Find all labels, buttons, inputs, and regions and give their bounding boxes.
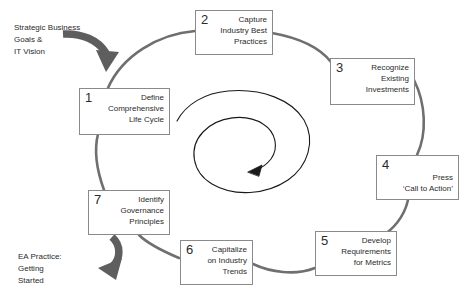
node-box-6[interactable]: 6 Capitalize on Industry Trends xyxy=(180,240,253,285)
output-label-line-3: Started xyxy=(18,275,62,287)
node-1-line-1: Define xyxy=(84,92,164,103)
ring-arc-6-to-7 xyxy=(139,235,179,258)
node-3-line-2: Existing xyxy=(335,73,409,84)
node-1-number: 1 xyxy=(85,91,92,104)
node-3-line-1: Recognize xyxy=(335,62,409,73)
node-1-line-3: Life Cycle xyxy=(84,114,164,125)
node-1-line-2: Comprehensive xyxy=(84,103,164,114)
ring-arc-2-to-3 xyxy=(272,33,331,62)
diagram-canvas: Strategic Business Goals & IT Vision EA … xyxy=(0,0,467,304)
node-box-2[interactable]: 2 Capture Industry Best Practices xyxy=(195,10,273,55)
input-label: Strategic Business Goals & IT Vision xyxy=(14,22,80,58)
node-box-7[interactable]: 7 Identify Governance Principles xyxy=(88,190,170,235)
node-box-4[interactable]: 4 Press ‘Call to Action’ xyxy=(376,155,459,200)
node-box-1[interactable]: 1 Define Comprehensive Life Cycle xyxy=(79,88,170,135)
node-5-number: 5 xyxy=(321,234,328,247)
node-3-text: Recognize Existing Investments xyxy=(335,62,409,95)
node-4-text: Press ‘Call to Action’ xyxy=(381,159,453,194)
node-2-text: Capture Industry Best Practices xyxy=(200,14,267,47)
node-7-line-1: Identify xyxy=(93,194,164,205)
node-7-line-2: Governance xyxy=(93,205,164,216)
node-6-line-3: Trends xyxy=(185,266,247,277)
node-5-line-2: Requirements xyxy=(320,246,391,257)
node-4-number: 4 xyxy=(382,158,389,171)
node-5-line-3: for Metrics xyxy=(320,257,391,268)
node-7-line-3: Principles xyxy=(93,216,164,227)
input-arrow-head xyxy=(96,50,119,72)
ring-arc-1-to-2 xyxy=(108,31,195,88)
node-3-number: 3 xyxy=(336,61,343,74)
node-2-number: 2 xyxy=(201,13,208,26)
output-arrow-head xyxy=(98,258,122,280)
spiral-arrowhead xyxy=(248,165,262,176)
inner-spiral xyxy=(177,91,310,193)
node-6-line-2: on Industry xyxy=(185,255,247,266)
node-box-5[interactable]: 5 Develop Requirements for Metrics xyxy=(315,231,397,276)
node-2-line-1: Capture xyxy=(200,14,267,25)
node-2-line-3: Practices xyxy=(200,36,267,47)
output-arrow xyxy=(98,237,122,280)
spiral-path xyxy=(177,91,310,193)
input-label-line-2: Goals & xyxy=(14,34,80,46)
node-3-line-3: Investments xyxy=(335,84,409,95)
node-7-text: Identify Governance Principles xyxy=(93,194,164,227)
ring-arc-3-to-4 xyxy=(414,80,424,155)
input-label-line-1: Strategic Business xyxy=(14,22,80,34)
node-5-text: Develop Requirements for Metrics xyxy=(320,235,391,268)
input-label-line-3: IT Vision xyxy=(14,46,80,58)
node-6-number: 6 xyxy=(186,243,193,256)
ring-arc-5-to-6 xyxy=(253,264,315,272)
node-6-line-1: Capitalize xyxy=(185,244,247,255)
node-6-text: Capitalize on Industry Trends xyxy=(185,244,247,277)
node-box-3[interactable]: 3 Recognize Existing Investments xyxy=(330,58,415,105)
node-1-text: Define Comprehensive Life Cycle xyxy=(84,92,164,125)
node-4-line-2: ‘Call to Action’ xyxy=(381,183,453,194)
node-5-line-1: Develop xyxy=(320,235,391,246)
output-label-line-2: Getting xyxy=(18,263,62,275)
node-7-number: 7 xyxy=(94,193,101,206)
node-2-line-2: Industry Best xyxy=(200,25,267,36)
node-4-line-1: Press xyxy=(381,172,453,183)
output-label: EA Practice: Getting Started xyxy=(18,251,62,287)
output-label-line-1: EA Practice: xyxy=(18,251,62,263)
ring-arc-7-to-1 xyxy=(96,134,104,190)
